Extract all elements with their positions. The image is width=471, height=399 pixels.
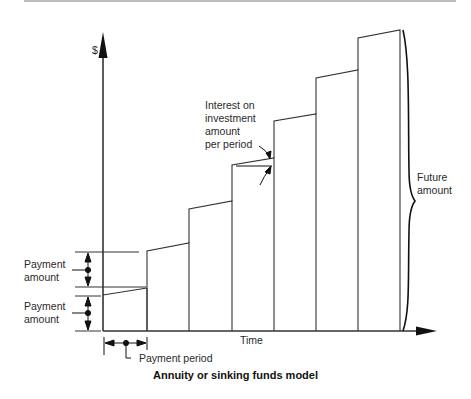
- bar-2: [147, 243, 189, 331]
- future-amount-brace: [403, 30, 415, 331]
- y-axis-label: $: [92, 44, 98, 57]
- interest-label: Interest on investment amount per period: [205, 99, 256, 151]
- y-axis: [99, 32, 108, 331]
- figure-caption: Annuity or sinking funds model: [0, 369, 471, 381]
- x-axis-label: Time: [240, 334, 263, 347]
- payment-amount-upper-label: Payment amount: [24, 258, 65, 284]
- bar-5: [274, 114, 316, 331]
- bar-4: [232, 158, 274, 331]
- y-axis-arrow-icon: [99, 32, 108, 58]
- x-axis: [103, 327, 437, 336]
- bar-1: [103, 288, 147, 295]
- payment-amount-lower-label: Payment amount: [24, 300, 65, 326]
- future-amount-label: Future amount: [417, 171, 452, 197]
- interest-callout-arrows: [236, 146, 272, 185]
- bar-6: [316, 70, 358, 331]
- annuity-diagram: [0, 0, 471, 399]
- x-axis-arrow-icon: [416, 327, 437, 336]
- payment-reference-lines: [75, 252, 146, 331]
- bar-3: [189, 201, 232, 331]
- payment-period-label: Payment period: [139, 352, 213, 365]
- bar-7: [358, 30, 400, 331]
- payment-amount-upper-dimension: [72, 253, 91, 286]
- payment-amount-lower-dimension: [72, 297, 91, 330]
- bars: [103, 30, 400, 331]
